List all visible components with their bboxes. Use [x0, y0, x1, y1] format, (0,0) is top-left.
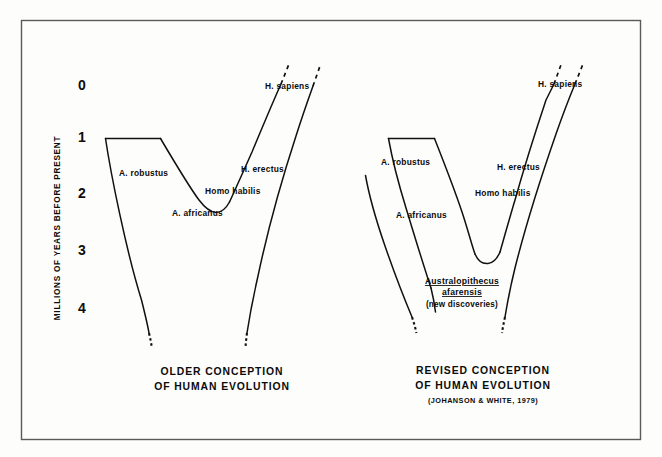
- revised-caption-line-1: REVISED CONCEPTION: [416, 365, 550, 376]
- revised-caption-line-2: OF HUMAN EVOLUTION: [415, 380, 551, 391]
- older-label-a-africanus: A. africanus: [172, 208, 223, 218]
- revised-africanus-left-edge-dashed: [412, 317, 416, 333]
- older-homo-right-edge-dashed: [313, 66, 320, 86]
- revised-inner-v-trough: [475, 252, 500, 264]
- axis-tick-4: 4: [78, 300, 86, 316]
- older-label-homo-habilis: Homo habilis: [205, 186, 261, 196]
- older-label-h-sapiens: H. sapiens: [265, 81, 309, 91]
- revised-label-h-erectus: H. erectus: [497, 162, 540, 172]
- axis-title: MILLIONS OF YEARS BEFORE PRESENT: [53, 136, 62, 320]
- older-robustus-left-edge-dashed: [149, 333, 152, 346]
- revised-label-homo-habilis: Homo habilis: [475, 188, 531, 198]
- axis-tick-1: 1: [78, 129, 86, 145]
- revised-label-a-robustus: A. robustus: [381, 157, 430, 167]
- axis-tick-2: 2: [78, 185, 86, 201]
- older-homo-right-edge-dashed-bottom: [246, 333, 247, 346]
- older-label-a-robustus: A. robustus: [119, 168, 168, 178]
- revised-inner-v-left: [435, 139, 476, 255]
- revised-homo-right-edge-dashed-bottom: [502, 317, 505, 333]
- revised-caption-credit: (JOHANSON & WHITE, 1979): [428, 396, 538, 405]
- revised-label-afarensis: afarensis: [442, 287, 482, 297]
- figure-root: 0 1 2 3 4 MILLIONS OF YEARS BEFORE PRESE…: [0, 0, 662, 457]
- older-homo-right-edge: [247, 86, 313, 333]
- axis-tick-3: 3: [78, 242, 86, 258]
- older-label-h-erectus: H. erectus: [241, 164, 284, 174]
- time-axis: 0 1 2 3 4 MILLIONS OF YEARS BEFORE PRESE…: [53, 77, 86, 321]
- revised-label-h-sapiens: H. sapiens: [538, 79, 582, 89]
- older-caption-line-2: OF HUMAN EVOLUTION: [154, 381, 290, 392]
- panel-older: A. robustus A. africanus Homo habilis H.…: [106, 64, 321, 392]
- axis-tick-0: 0: [78, 77, 86, 93]
- revised-label-australopithecus: Australopithecus: [425, 276, 499, 286]
- older-inner-v-left: [161, 139, 217, 213]
- evolution-diagram: 0 1 2 3 4 MILLIONS OF YEARS BEFORE PRESE…: [0, 0, 662, 457]
- panel-revised: A. robustus A. africanus Australopithecu…: [366, 62, 584, 405]
- revised-label-new-discoveries: (new discoveries): [426, 300, 498, 309]
- older-homo-left-edge: [230, 84, 282, 202]
- revised-label-a-africanus: A. africanus: [396, 210, 447, 220]
- revised-africanus-left-edge: [366, 176, 413, 318]
- older-caption-line-1: OLDER CONCEPTION: [161, 366, 284, 377]
